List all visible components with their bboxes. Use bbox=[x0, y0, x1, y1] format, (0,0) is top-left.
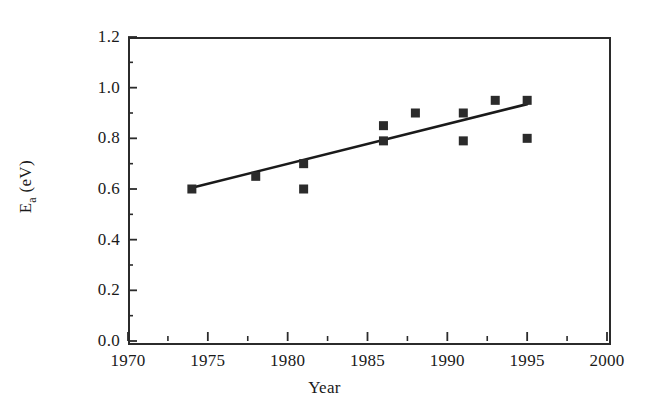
x-axis-title: Year bbox=[0, 378, 649, 398]
data-point-10 bbox=[523, 96, 532, 105]
data-point-1 bbox=[251, 172, 260, 181]
y-tick-label: 0.2 bbox=[76, 281, 120, 298]
x-tick-label: 1995 bbox=[497, 352, 557, 369]
data-point-0 bbox=[187, 185, 196, 194]
y-axis-title-unit: (eV) bbox=[16, 160, 35, 197]
y-axis-title: Ea (eV) bbox=[16, 117, 39, 257]
x-tick-label: 1985 bbox=[338, 352, 398, 369]
trend-line-segment bbox=[192, 104, 527, 188]
data-point-2 bbox=[299, 159, 308, 168]
x-tick-label: 1975 bbox=[178, 352, 238, 369]
y-tick-label: 0.6 bbox=[76, 180, 120, 197]
data-point-7 bbox=[459, 109, 468, 118]
x-axis-tick-labels: 1970197519801985199019952000 bbox=[0, 352, 649, 376]
y-axis-title-base: E bbox=[16, 203, 35, 214]
data-point-6 bbox=[411, 109, 420, 118]
y-tick-label: 0.4 bbox=[76, 231, 120, 248]
y-axis-major-ticks bbox=[128, 37, 137, 341]
x-tick-label: 1990 bbox=[417, 352, 477, 369]
data-point-3 bbox=[299, 185, 308, 194]
trend-line bbox=[192, 104, 527, 188]
x-tick-label: 1980 bbox=[258, 352, 318, 369]
data-point-5 bbox=[379, 136, 388, 145]
y-axis-title-subscript: a bbox=[25, 197, 39, 203]
data-point-8 bbox=[459, 136, 468, 145]
chart-figure: 0.00.20.40.60.81.01.2 197019751980198519… bbox=[0, 0, 649, 413]
y-tick-label: 1.0 bbox=[76, 79, 120, 96]
data-point-9 bbox=[491, 96, 500, 105]
x-axis-major-ticks bbox=[128, 332, 607, 341]
x-tick-label: 2000 bbox=[577, 352, 637, 369]
y-tick-label: 0.0 bbox=[76, 332, 120, 349]
data-point-11 bbox=[523, 134, 532, 143]
data-point-4 bbox=[379, 121, 388, 130]
x-tick-label: 1970 bbox=[98, 352, 158, 369]
y-tick-label: 1.2 bbox=[76, 28, 120, 45]
y-tick-label: 0.8 bbox=[76, 129, 120, 146]
